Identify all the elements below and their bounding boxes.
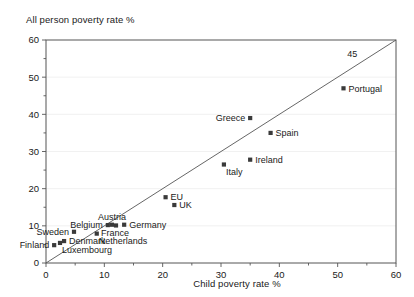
y-tick-label-20: 20 — [28, 183, 39, 194]
marker-ireland — [248, 158, 252, 162]
data-point: Ireland — [248, 155, 283, 165]
marker-germany — [122, 223, 126, 227]
plot-canvas: 0102030405060 0102030405060 45 FinlandLu… — [0, 0, 414, 297]
marker-sweden — [72, 230, 76, 234]
marker-belgium — [106, 223, 110, 227]
point-label-ireland: Ireland — [255, 155, 283, 165]
reference-line-label: 45 — [347, 49, 357, 59]
y-tick-label-50: 50 — [28, 72, 39, 83]
marker-uk — [172, 203, 176, 207]
marker-france — [114, 223, 118, 227]
x-axis-title-text: Child poverty rate % — [193, 278, 281, 289]
point-label-germany: Germany — [129, 220, 167, 230]
marker-spain — [268, 131, 272, 135]
point-label-austria: Austria — [98, 212, 126, 222]
point-label-luxembourg: Luxembourg — [62, 245, 112, 255]
x-axis-title: Child poverty rate % — [0, 278, 414, 289]
data-point: Finland — [20, 240, 57, 250]
point-label-finland: Finland — [20, 240, 50, 250]
scatter-chart: All person poverty rate % 0102030405060 … — [0, 0, 414, 297]
point-label-greece: Greece — [216, 113, 246, 123]
data-point: Greece — [216, 113, 253, 123]
point-label-uk: UK — [179, 200, 192, 210]
marker-greece — [248, 116, 252, 120]
marker-eu — [163, 195, 167, 199]
y-tick-label-40: 40 — [28, 109, 39, 120]
point-label-sweden: Sweden — [36, 227, 69, 237]
point-label-portugal: Portugal — [349, 84, 383, 94]
data-point: Portugal — [341, 84, 382, 94]
y-tick-label-60: 60 — [28, 34, 39, 45]
point-label-italy: Italy — [226, 167, 243, 177]
point-label-spain: Spain — [276, 128, 299, 138]
y-tick-label-30: 30 — [28, 146, 39, 157]
y-tick-label-0: 0 — [34, 257, 39, 268]
point-label-belgium: Belgium — [70, 220, 103, 230]
marker-denmark — [62, 239, 66, 243]
marker-austria — [110, 223, 114, 227]
data-point: Italy — [222, 162, 243, 176]
data-point: Germany — [122, 220, 167, 230]
marker-finland — [52, 243, 56, 247]
data-point: Spain — [268, 128, 298, 138]
data-points: FinlandLuxembourgDenmarkSwedenNetherland… — [20, 84, 382, 255]
marker-portugal — [341, 86, 345, 90]
point-label-france: France — [101, 228, 129, 238]
